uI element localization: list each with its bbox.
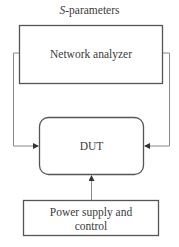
network-analyzer-label: Network analyzer: [19, 47, 163, 61]
power-label-line2: control: [23, 219, 159, 233]
power-label-line1: Power supply and: [23, 205, 159, 219]
right-connector-line: [145, 53, 170, 146]
left-connector-line: [14, 53, 39, 146]
dut-label: DUT: [39, 139, 144, 153]
